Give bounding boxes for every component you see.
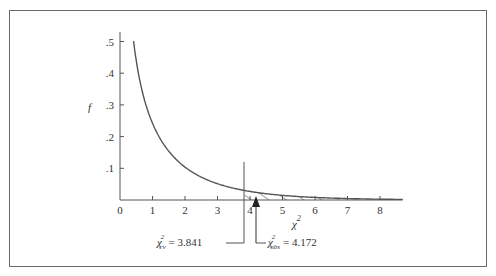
density-curve xyxy=(133,42,403,200)
x-axis-label: χ2 xyxy=(291,214,301,230)
y-tick-label: .2 xyxy=(106,131,114,143)
x-tick-label: 5 xyxy=(280,204,286,216)
x-tick-label: 4 xyxy=(247,204,253,216)
x-tick-label: 1 xyxy=(150,204,156,216)
chi-square-chart: 012345678.1.2.3.4.5 f χ2 χ2cv= 3.841 χ2o… xyxy=(0,0,496,276)
y-axis-label: f xyxy=(88,101,93,113)
observed-value-label: χ2obs= 4.172 xyxy=(267,233,317,251)
x-tick-label: 0 xyxy=(117,204,123,216)
critical-value-label: χ2cv= 3.841 xyxy=(156,233,202,251)
y-tick-label: .4 xyxy=(106,67,115,79)
y-tick-label: .1 xyxy=(106,162,114,174)
y-tick-label: .5 xyxy=(106,36,115,48)
axes xyxy=(120,32,403,200)
x-tick-label: 8 xyxy=(377,204,383,216)
annotations: χ2cv= 3.841 χ2obs= 4.172 xyxy=(156,162,317,251)
x-tick-label: 7 xyxy=(345,204,351,216)
x-tick-label: 3 xyxy=(215,204,221,216)
x-tick-label: 6 xyxy=(312,204,318,216)
x-tick-label: 2 xyxy=(182,204,188,216)
y-tick-label: .3 xyxy=(106,99,115,111)
